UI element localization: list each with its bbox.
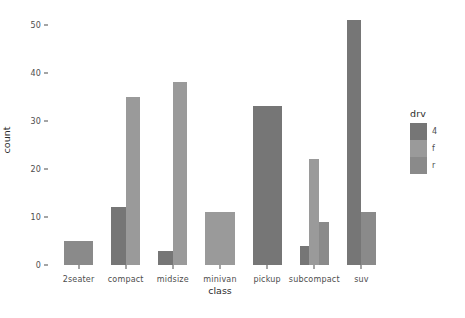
x-axis-tick-mark <box>361 265 362 269</box>
bar <box>111 207 126 265</box>
y-axis-tick-label: 30 <box>30 116 41 125</box>
legend-key-swatch <box>410 140 427 157</box>
legend-item-label: f <box>432 145 435 153</box>
legend-item[interactable]: f <box>410 140 460 157</box>
y-axis-tick-label: 50 <box>30 20 41 29</box>
bar <box>347 20 362 265</box>
bar <box>361 212 376 265</box>
legend-item-label: r <box>432 162 435 170</box>
bar <box>64 241 93 265</box>
legend-key-swatch <box>410 123 427 140</box>
legend-items: 4fr <box>410 123 460 174</box>
y-axis-tick-mark <box>44 168 48 169</box>
x-axis-tick-label: 2seater <box>63 275 95 284</box>
plot-panel <box>55 15 385 265</box>
y-axis-tick-label: 10 <box>30 212 41 221</box>
y-axis-tick-mark <box>44 72 48 73</box>
y-axis: count 01020304050 <box>0 0 55 318</box>
legend-key-swatch <box>410 157 427 174</box>
y-axis-title: count <box>1 127 12 154</box>
bar <box>253 106 282 265</box>
y-axis-tick-mark <box>44 265 48 266</box>
x-axis-tick-label: pickup <box>253 275 280 284</box>
x-axis-tick-mark <box>78 265 79 269</box>
x-axis-tick-label: minivan <box>203 275 236 284</box>
x-axis-tick-mark <box>172 265 173 269</box>
legend: drv 4fr <box>410 108 460 174</box>
bar <box>300 246 310 265</box>
x-axis-tick-mark <box>220 265 221 269</box>
x-axis-tick-label: midsize <box>157 275 189 284</box>
legend-item[interactable]: r <box>410 157 460 174</box>
legend-title: drv <box>410 108 460 119</box>
x-axis-tick-label: suv <box>354 275 369 284</box>
x-axis-tick-mark <box>314 265 315 269</box>
legend-item[interactable]: 4 <box>410 123 460 140</box>
x-axis-tick-label: compact <box>108 275 144 284</box>
x-axis-tick-mark <box>125 265 126 269</box>
x-axis-title: class <box>55 285 385 296</box>
bar <box>173 82 188 265</box>
y-axis-tick-mark <box>44 216 48 217</box>
x-axis-tick-mark <box>267 265 268 269</box>
bar <box>158 251 173 265</box>
bar <box>319 222 329 265</box>
y-axis-tick-label: 0 <box>36 261 41 270</box>
bar <box>205 212 234 265</box>
bar <box>126 97 141 265</box>
x-axis-tick-label: subcompact <box>289 275 340 284</box>
y-axis-tick-label: 40 <box>30 68 41 77</box>
bar-chart: count 01020304050 2seatercompactmidsizem… <box>0 0 465 318</box>
bar <box>309 159 319 265</box>
y-axis-tick-mark <box>44 24 48 25</box>
y-axis-tick-label: 20 <box>30 164 41 173</box>
legend-item-label: 4 <box>432 128 437 136</box>
y-axis-tick-mark <box>44 120 48 121</box>
